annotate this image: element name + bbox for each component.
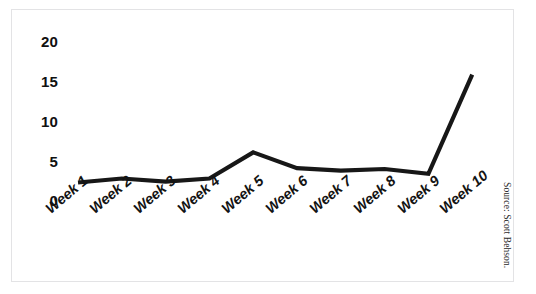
line-chart-svg (11, 9, 514, 282)
data-series-line (78, 75, 472, 183)
plot-area (11, 9, 514, 282)
source-credit: Source: Scott Behson. (502, 182, 512, 268)
chart-screenshot: 20 15 10 5 0 Week 1 Week 2 Week 3 Week 4… (0, 0, 536, 294)
